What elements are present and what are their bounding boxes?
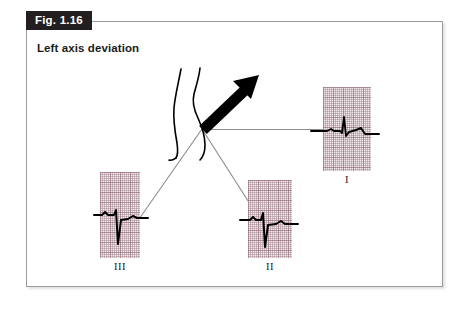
ecg-label-lead-I: I [323,174,371,185]
figure-title: Left axis deviation [37,42,139,54]
ecg-trace-lead-III [100,172,140,258]
ecg-trace-lead-I [323,87,371,171]
ecg-trace-lead-II [248,180,292,258]
figure-number-tag: Fig. 1.16 [26,11,92,30]
figure-panel [26,21,443,287]
ecg-label-lead-III: III [100,261,140,272]
ecg-strip-lead-I [323,87,371,171]
figure-container: Fig. 1.16 Left axis deviation [0,0,469,317]
ecg-strip-lead-III [100,172,140,258]
ecg-label-lead-II: II [248,261,292,272]
ecg-strip-lead-II [248,180,292,258]
